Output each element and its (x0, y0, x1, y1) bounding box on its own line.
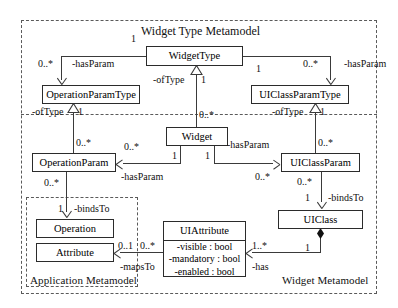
class-uiclass-name: UIClass (279, 211, 362, 229)
package-title-application-metamodel: Application Metamodel (30, 274, 137, 286)
edge-widgettype-uiclassparamtype-v (330, 56, 331, 80)
edge-widget-operationparam-v (180, 146, 181, 164)
class-widgettype-name: WidgetType (147, 47, 242, 65)
mult-uiclassparam-hasparam-target: 0..* (255, 171, 270, 182)
class-attribute-name: Attribute (37, 244, 113, 262)
class-operationparam[interactable]: OperationParam (32, 153, 116, 172)
package-title-widget-type-metamodel: Widget Type Metamodel (141, 24, 260, 39)
class-widget[interactable]: Widget (166, 127, 228, 146)
edge-widgettype-uiclassparamtype-h (243, 56, 331, 57)
edge-widget-uiclassparam-h (214, 163, 273, 164)
class-uiclassparam-name: UIClassParam (282, 154, 359, 172)
edge-widget-operationparam-h (123, 163, 181, 164)
label-hasparam-operationparamtype: -hasParam (72, 58, 114, 69)
edge-widget-widgettype (196, 68, 197, 128)
class-uiattribute[interactable]: UIAttribute -visible : bool -mandatory :… (163, 221, 246, 277)
label-hasparam-operationparam: -hasParam (121, 171, 163, 182)
label-oftype-uiclassparamtype: -ofType (272, 106, 304, 117)
label-hasparam-uiclassparam: -hasParam (227, 139, 269, 150)
mult-operationparamtype-target: 0..* (38, 58, 53, 69)
uml-diagram-canvas: Widget Type Metamodel Application Metamo… (0, 0, 398, 308)
edge-widgettype-operationparamtype-h (61, 56, 147, 57)
label-oftype-widgettype: -ofType (153, 74, 185, 85)
mult-widgettype-hasparam-operation-source: 1 (131, 33, 136, 44)
class-uiclassparamtype[interactable]: UIClassParamType (251, 85, 349, 104)
edge-widget-uiclassparam-v (214, 146, 215, 164)
mult-widget-hasparam-operation-source: 1 (172, 150, 177, 161)
mult-attribute-mapsto-target: 0..1 (118, 240, 133, 251)
edge-uiclassparam-uiclass (321, 172, 322, 202)
edge-uiattribute-attribute (120, 252, 164, 253)
mult-uiclassparam-bindsto-source: 0..* (297, 176, 312, 187)
class-uiattribute-attributes: -visible : bool -mandatory : bool -enabl… (164, 240, 245, 278)
class-uiattribute-attribute-visible: -visible : bool (164, 241, 245, 253)
class-operation-name: Operation (37, 220, 113, 238)
mult-uiclassparam-oftype-source: 0..* (318, 137, 333, 148)
class-operationparam-name: OperationParam (33, 154, 115, 172)
label-bindsto-uiclass: -bindsTo (328, 192, 363, 203)
class-attribute[interactable]: Attribute (36, 243, 114, 262)
mult-uiclass-bindsto-target: 1 (305, 192, 310, 203)
mult-uiclass-has-source: 1 (305, 242, 310, 253)
mult-operationparam-bindsto-source: 0..* (44, 177, 59, 188)
mult-widget-hasparam-uiclass-source: 1 (205, 150, 210, 161)
package-title-widget-metamodel: Widget Metamodel (282, 274, 368, 286)
class-uiattribute-attribute-enabled: -enabled : bool (164, 266, 245, 278)
class-widgettype[interactable]: WidgetType (146, 46, 243, 66)
class-uiclassparamtype-name: UIClassParamType (252, 86, 348, 104)
mult-operationparam-hasparam-target: 0..* (124, 141, 139, 152)
edge-operationparam-operationparamtype (73, 106, 74, 154)
class-operation[interactable]: Operation (36, 219, 114, 238)
label-mapsto-attribute: -mapsTo (120, 261, 155, 272)
edge-widgettype-operationparamtype-v (61, 56, 62, 80)
label-hasparam-uiclassparamtype: -hasParam (344, 58, 386, 69)
mult-uiattribute-has-target: 1..* (252, 240, 267, 251)
mult-widgettype-oftype-target: 1 (201, 74, 206, 85)
mult-widget-oftype-source: 0..* (199, 109, 214, 120)
mult-widgettype-hasparam-uiclass-source: 1 (256, 63, 261, 74)
mult-operationparam-oftype-source: 0..* (76, 137, 91, 148)
class-operationparamtype-name: OperationParamType (43, 86, 139, 104)
mult-operationparamtype-oftype-target: 1 (78, 106, 83, 117)
label-bindsto-operation: -bindsTo (74, 203, 109, 214)
label-has-uiattribute: -has (252, 261, 269, 272)
mult-uiclassparamtype-target: 0..* (303, 58, 318, 69)
edge-uiclass-uiattribute-h (252, 252, 321, 253)
label-oftype-operationparamtype: -ofType (32, 106, 64, 117)
mult-uiclassparamtype-oftype-target: 1 (320, 106, 325, 117)
class-uiclass[interactable]: UIClass (278, 210, 363, 229)
class-widget-name: Widget (167, 128, 227, 146)
mult-operation-bindsto-target: 1 (58, 203, 63, 214)
class-uiattribute-name: UIAttribute (164, 222, 245, 240)
class-uiattribute-attribute-mandatory: -mandatory : bool (164, 253, 245, 265)
class-uiclassparam[interactable]: UIClassParam (281, 153, 360, 172)
mult-uiattribute-mapsto-source: 0..* (140, 240, 155, 251)
class-operationparamtype[interactable]: OperationParamType (42, 85, 140, 104)
edge-operationparam-operation (66, 172, 67, 212)
edge-uiclassparam-uiclassparamtype (315, 106, 316, 154)
